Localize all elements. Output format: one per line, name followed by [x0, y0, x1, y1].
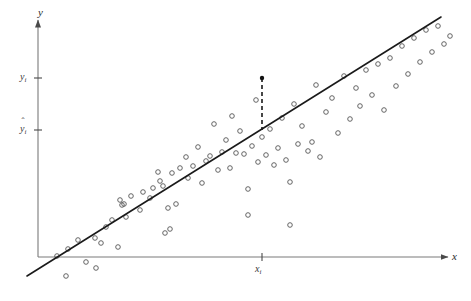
x-axis-label: x [452, 250, 457, 262]
scatter-point [246, 187, 251, 192]
regression-line-group [27, 17, 441, 276]
scatter-point [276, 146, 281, 151]
scatter-point [178, 166, 183, 171]
scatter-point [358, 104, 363, 109]
scatter-point [324, 110, 329, 115]
scatter-point [170, 171, 175, 176]
scatter-point [208, 154, 213, 159]
scatter-point [129, 194, 134, 199]
regression-scatter-figure: y x yi ˆyi xi [0, 0, 471, 301]
scatter-point [116, 245, 121, 250]
scatter-point [161, 184, 166, 189]
scatter-point [212, 122, 217, 127]
scatter-point [424, 28, 429, 33]
scatter-point [238, 129, 243, 134]
scatter-point [94, 266, 99, 271]
scatter-point [76, 238, 81, 243]
scatter-point [246, 213, 251, 218]
scatter-point [234, 151, 239, 156]
scatter-point [93, 236, 98, 241]
scatter-point [400, 44, 405, 49]
axes-group [38, 20, 448, 257]
scatter-point [174, 202, 179, 207]
scatter-point [272, 163, 277, 168]
scatter-point [254, 98, 259, 103]
scatter-point [196, 145, 201, 150]
tick-label-x-point: xi [255, 263, 261, 274]
scatter-point [260, 135, 265, 140]
scatter-point [156, 170, 161, 175]
scatter-point [168, 227, 173, 232]
scatter-point [430, 50, 435, 55]
scatter-point [288, 223, 293, 228]
scatter-point [296, 142, 301, 147]
scatter-point [394, 84, 399, 89]
scatter-point [84, 260, 89, 265]
scatter-point [348, 117, 353, 122]
scatter-point [448, 34, 453, 39]
scatter-point [250, 144, 255, 149]
scatter-point [224, 138, 229, 143]
scatter-point [228, 166, 233, 171]
scatter-point [163, 231, 168, 236]
tick-label-y-fitted: ˆyi [20, 123, 26, 134]
scatter-point [354, 86, 359, 91]
scatter-point [64, 274, 69, 279]
scatter-point [184, 155, 189, 160]
scatter-point [191, 164, 196, 169]
plot-canvas [0, 0, 471, 301]
scatter-point [268, 127, 273, 132]
scatter-point [292, 102, 297, 107]
scatter-point [418, 60, 423, 65]
scatter-point [151, 186, 156, 191]
scatter-point [330, 96, 335, 101]
scatter-point [158, 179, 163, 184]
scatter-point [314, 83, 319, 88]
scatter-point [264, 153, 269, 158]
tick-label-y-observed: yi [20, 71, 26, 82]
scatter-point [306, 149, 311, 154]
scatter-point [436, 24, 441, 29]
scatter-point [99, 241, 104, 246]
scatter-point [300, 124, 305, 129]
y-axis-label: y [38, 6, 43, 18]
residual-dashed-line-group [260, 76, 264, 130]
scatter-point [141, 190, 146, 195]
scatter-point [242, 152, 247, 157]
scatter-point [256, 160, 261, 165]
circumflex-icon: ˆ [20, 116, 26, 126]
scatter-point [284, 158, 289, 163]
scatter-point [118, 198, 123, 203]
scatter-point [216, 168, 221, 173]
scatter-point [310, 140, 315, 145]
scatter-point [336, 131, 341, 136]
regression-line [27, 17, 441, 276]
scatter-point [318, 155, 323, 160]
scatter-point [138, 208, 143, 213]
scatter-point [376, 62, 381, 67]
scatter-point [230, 114, 235, 119]
scatter-point [382, 108, 387, 113]
scatter-point [406, 72, 411, 77]
scatter-points-group [55, 24, 453, 279]
scatter-point [288, 180, 293, 185]
scatter-point [412, 36, 417, 41]
scatter-point [370, 93, 375, 98]
scatter-point [166, 206, 171, 211]
scatter-point [200, 181, 205, 186]
scatter-point [442, 42, 447, 47]
observed-point-marker [260, 76, 264, 80]
scatter-point [364, 68, 369, 73]
scatter-point [388, 56, 393, 61]
